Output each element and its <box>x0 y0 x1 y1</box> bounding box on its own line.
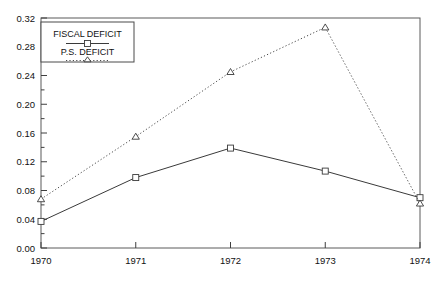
chart-legend: FISCAL DEFICIT P.S. DEFICIT <box>41 22 134 62</box>
data-point-square <box>322 168 328 174</box>
data-point-square <box>133 175 139 181</box>
y-axis-tick-label: 0.16 <box>17 128 36 139</box>
x-axis-ticks <box>41 242 420 248</box>
y-axis-tick-label: 0.00 <box>17 243 36 254</box>
data-point-square <box>38 218 44 224</box>
x-axis-tick-label: 1972 <box>220 255 241 266</box>
data-point-square <box>228 145 234 151</box>
series-fiscal-deficit <box>38 145 423 224</box>
chart-container: 0.000.040.080.120.160.200.240.280.32 197… <box>0 0 436 281</box>
line-chart-svg: 0.000.040.080.120.160.200.240.280.32 197… <box>0 0 436 281</box>
series-line <box>41 148 420 221</box>
x-axis-tick-label: 1973 <box>315 255 336 266</box>
y-axis-tick-label: 0.04 <box>17 214 36 225</box>
y-axis-tick-label: 0.08 <box>17 185 36 196</box>
square-marker-icon <box>85 41 91 47</box>
data-point-triangle <box>37 196 44 202</box>
y-axis-tick-label: 0.24 <box>17 70 36 81</box>
y-axis-tick-label: 0.32 <box>17 13 36 24</box>
x-axis-tick-label: 1971 <box>125 255 146 266</box>
data-point-triangle <box>227 69 234 75</box>
data-point-triangle <box>322 24 329 30</box>
x-axis-tick-label: 1974 <box>409 255 430 266</box>
y-axis-tick-label: 0.12 <box>17 156 36 167</box>
y-axis-labels: 0.000.040.080.120.160.200.240.280.32 <box>17 13 36 254</box>
x-axis-tick-label: 1970 <box>30 255 51 266</box>
legend-label-ps-deficit: P.S. DEFICIT <box>61 47 115 57</box>
data-point-triangle <box>132 133 139 139</box>
y-axis-tick-label: 0.28 <box>17 41 36 52</box>
legend-label-fiscal-deficit: FISCAL DEFICIT <box>53 29 122 39</box>
y-axis-tick-label: 0.20 <box>17 99 36 110</box>
x-axis-labels: 19701971197219731974 <box>30 255 430 266</box>
